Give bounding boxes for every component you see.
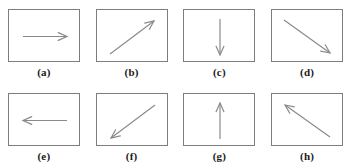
panel-caption-g: (g) [213,151,226,162]
arrow-down-left-icon [97,94,167,145]
panel-frame-f [96,93,168,146]
panel-caption-a: (a) [37,67,50,78]
panel-cell-b: (b) [88,0,176,84]
panel-cell-d: (d) [263,0,351,84]
panel-caption-h: (h) [300,151,314,162]
arrow-up-right-icon [97,10,167,61]
panel-cell-c: (c) [176,0,264,84]
panel-caption-f: (f) [126,151,138,162]
panel-grid: (a) (b) (c) [0,0,351,168]
panel-caption-d: (d) [300,67,314,78]
panel-caption-b: (b) [125,67,139,78]
panel-frame-c [183,9,255,62]
panel-cell-g: (g) [176,84,264,168]
panel-frame-b [96,9,168,62]
panel-frame-h [271,93,343,146]
panel-frame-e [8,93,80,146]
panel-cell-h: (h) [263,84,351,168]
panel-cell-f: (f) [88,84,176,168]
panel-caption-c: (c) [213,67,226,78]
panel-cell-e: (e) [0,84,88,168]
panel-frame-g [183,93,255,146]
panel-frame-a [8,9,80,62]
arrow-down-right-icon [272,10,342,61]
panel-cell-a: (a) [0,0,88,84]
arrow-down-icon [184,10,254,61]
arrow-right-icon [9,10,79,61]
panel-frame-d [271,9,343,62]
arrow-up-left-icon [272,94,342,145]
arrow-up-icon [184,94,254,145]
arrow-left-icon [9,94,79,145]
panel-caption-e: (e) [37,151,50,162]
arrow-direction-figure: (a) (b) (c) [0,0,351,168]
